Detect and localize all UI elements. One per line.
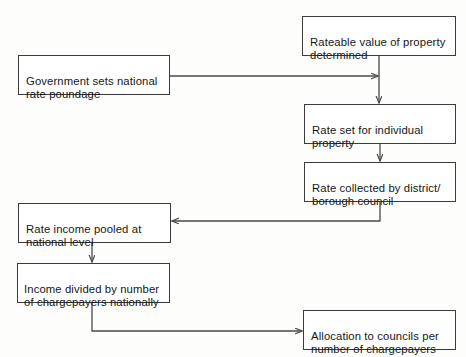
node-allocation-councils-label: Allocation to councils per number of cha… (311, 330, 455, 357)
node-rate-income-pooled-label: Rate income pooled at national level (26, 223, 170, 250)
node-income-divided[interactable]: Income divided by number of chargepayers… (17, 263, 170, 303)
node-rateable-value[interactable]: Rateable value of property determined (302, 16, 456, 56)
node-rate-collected-label: Rate collected by district/ borough coun… (312, 182, 455, 209)
node-rate-collected[interactable]: Rate collected by district/ borough coun… (304, 162, 456, 202)
node-rate-set-individual-label: Rate set for individual property (312, 124, 455, 151)
node-income-divided-label: Income divided by number of chargepayers… (24, 283, 169, 310)
node-government-poundage[interactable]: Government sets national rate poundage (18, 55, 170, 95)
node-government-poundage-label: Government sets national rate poundage (26, 75, 169, 102)
node-rate-set-individual[interactable]: Rate set for individual property (304, 104, 456, 144)
node-rate-income-pooled[interactable]: Rate income pooled at national level (18, 203, 171, 243)
node-rateable-value-label: Rateable value of property determined (310, 36, 455, 63)
node-allocation-councils[interactable]: Allocation to councils per number of cha… (303, 310, 456, 350)
flowchart-canvas: Rateable value of property determined Go… (0, 0, 466, 357)
